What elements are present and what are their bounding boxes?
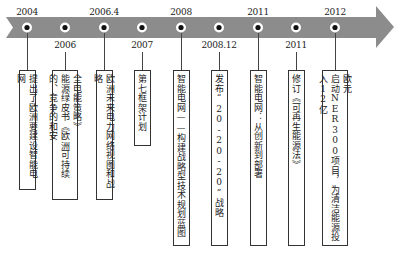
- event-box: 欧元启动NER300项目，为清洁能源投入12亿: [322, 70, 348, 246]
- event-box: 智能电网——构建战略型技术规划蓝图: [173, 70, 190, 246]
- timeline-dot: [330, 23, 340, 33]
- event-text: 第七框架计划: [136, 74, 148, 142]
- year-label: 2012: [324, 7, 346, 17]
- event-text: 启动NER300项目，为清洁能源投入12亿: [317, 74, 341, 242]
- year-label: 2006.4: [89, 7, 119, 17]
- connector-line: [181, 33, 182, 70]
- event-box: 欧洲未来电力网络视图和战略: [96, 70, 113, 200]
- event-box: 第七框架计划: [134, 70, 151, 146]
- year-label: 2008: [170, 7, 192, 17]
- connector-line: [104, 33, 105, 70]
- year-label: 2011: [247, 7, 269, 17]
- event-text: 修订《可再生能源法》: [290, 74, 302, 242]
- year-label: 2007: [131, 40, 153, 50]
- event-box: 智能电网：从创新到部署: [250, 70, 267, 246]
- event-text: 欧洲未来电力网络视图和战略: [92, 74, 116, 196]
- connector-line: [258, 33, 259, 70]
- event-text: 能源绿皮书《欧洲可持续的、竞争的和安: [47, 74, 71, 196]
- event-box: 全电能策略》能源绿皮书《欧洲可持续的、竞争的和安: [52, 70, 78, 200]
- event-text: 智能电网——构建战略型技术规划蓝图: [175, 74, 187, 242]
- connector-line: [296, 52, 297, 70]
- event-text: 全电能策略》: [71, 74, 83, 196]
- year-label: 2004: [16, 7, 38, 17]
- event-text: 欧元: [341, 74, 353, 242]
- year-label: 2006: [54, 40, 76, 50]
- connector-line: [65, 52, 66, 70]
- timeline-dot: [291, 23, 301, 33]
- timeline-dot: [176, 23, 186, 33]
- event-box: 发布“20-20-20”战略: [211, 70, 228, 246]
- event-box: 提出了欧洲要建设智能电网: [19, 70, 36, 190]
- event-text: 智能电网：从创新到部署: [252, 74, 264, 242]
- event-text: 提出了欧洲要建设智能电网: [15, 74, 39, 186]
- timeline-dot: [99, 23, 109, 33]
- event-box: 修订《可再生能源法》: [288, 70, 305, 246]
- connector-line: [219, 52, 220, 70]
- connector-line: [142, 52, 143, 70]
- connector-line: [335, 33, 336, 70]
- year-label: 2011: [285, 40, 307, 50]
- connector-line: [27, 33, 28, 70]
- year-label: 2008.12: [201, 40, 236, 50]
- timeline-dot: [22, 23, 32, 33]
- event-text: 发布“20-20-20”战略: [213, 74, 225, 242]
- timeline-dot: [253, 23, 263, 33]
- timeline-dot: [60, 23, 70, 33]
- timeline-dot: [214, 23, 224, 33]
- timeline-dot: [137, 23, 147, 33]
